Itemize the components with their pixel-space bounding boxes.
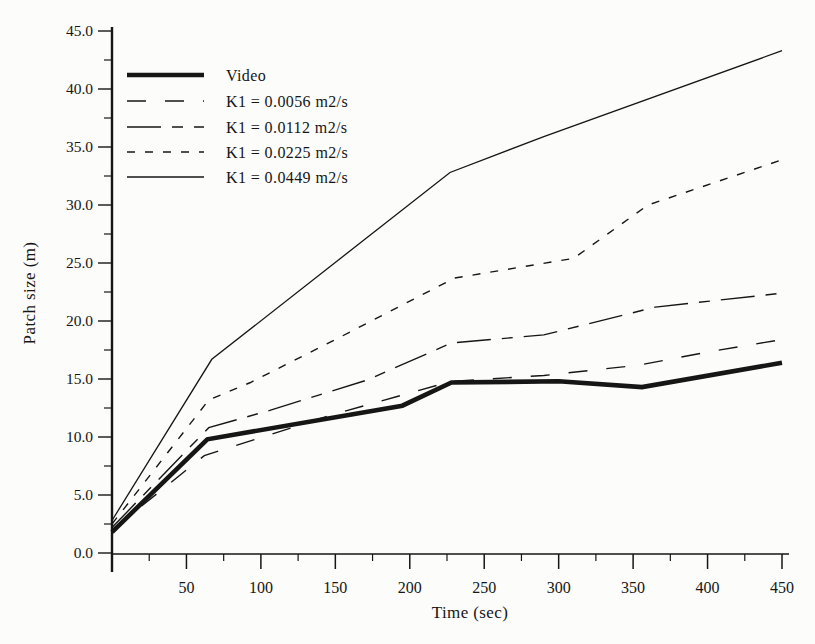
legend-label: K1 = 0.0225 m2/s <box>226 144 348 161</box>
legend-label: K1 = 0.0449 m2/s <box>226 169 348 186</box>
legend-label: K1 = 0.0056 m2/s <box>226 93 348 110</box>
x-tick-label: 150 <box>323 579 347 596</box>
x-tick-label: 100 <box>249 579 273 596</box>
x-tick-label: 400 <box>696 579 720 596</box>
x-tick-label: 250 <box>472 579 496 596</box>
y-tick-label: 25.0 <box>66 254 93 271</box>
series-line-k1-0-0056-m2-s <box>112 340 782 530</box>
x-tick-label: 450 <box>770 579 794 596</box>
y-tick-label: 10.0 <box>66 428 93 445</box>
series-line-k1-0-0449-m2-s <box>112 51 782 521</box>
x-tick-label: 300 <box>547 579 571 596</box>
series-line-video <box>112 363 782 532</box>
plot-canvas: 0.05.010.015.020.025.030.035.040.045.050… <box>0 0 815 644</box>
y-tick-label: 40.0 <box>66 80 93 97</box>
y-axis-title: Patch size (m) <box>20 242 40 345</box>
series-line-k1-0-0112-m2-s <box>112 293 782 527</box>
x-tick-label: 200 <box>398 579 422 596</box>
legend-label: K1 = 0.0112 m2/s <box>226 119 348 136</box>
x-axis-title: Time (sec) <box>432 603 509 623</box>
x-tick-label: 50 <box>178 579 194 596</box>
legend-label: Video <box>226 67 266 84</box>
y-tick-label: 20.0 <box>66 312 93 329</box>
y-tick-label: 15.0 <box>66 370 93 387</box>
x-tick-label: 350 <box>621 579 645 596</box>
y-tick-label: 5.0 <box>74 486 94 503</box>
series-line-k1-0-0225-m2-s <box>112 160 782 524</box>
y-tick-label: 35.0 <box>66 138 93 155</box>
y-tick-label: 0.0 <box>74 544 94 561</box>
chart-figure: 0.05.010.015.020.025.030.035.040.045.050… <box>0 0 815 644</box>
y-tick-label: 45.0 <box>66 22 93 39</box>
y-tick-label: 30.0 <box>66 196 93 213</box>
